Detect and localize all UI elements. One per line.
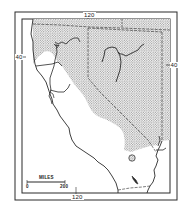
mexico-border xyxy=(118,186,150,190)
river-crossing xyxy=(36,62,62,66)
scale-start: 0 xyxy=(26,185,29,190)
river-crossing-south xyxy=(50,84,70,92)
stippled-region xyxy=(33,19,170,152)
map-figure xyxy=(0,0,191,212)
scale-title: MILES xyxy=(39,176,54,181)
longitude-label-bottom: 120 xyxy=(71,194,84,200)
latitude-label-left: 40 xyxy=(15,54,23,60)
longitude-label-top: 120 xyxy=(83,12,96,18)
salton-sea xyxy=(132,176,138,184)
colorado-river xyxy=(147,141,162,193)
scale-end: 200 xyxy=(60,185,68,190)
lake-symbol xyxy=(129,155,135,161)
latitude-label-right: 40 xyxy=(170,62,178,68)
